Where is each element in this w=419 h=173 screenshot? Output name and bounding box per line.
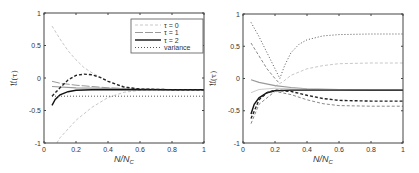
plot-panel-right: 00.20.40.60.81-1-0.500.51N/NC𝔘(τ) (208, 11, 405, 166)
x-tick-label: 1 (401, 146, 405, 153)
legend-label: τ = 0 (164, 22, 179, 29)
y-tick-label: 0 (37, 75, 41, 82)
x-tick-label: 0.4 (103, 146, 113, 153)
x-tick-label: 0.8 (167, 146, 177, 153)
x-tick-label: 0.6 (334, 146, 344, 153)
series-line (251, 22, 403, 78)
y-tick-label: 1 (236, 11, 240, 18)
legend: τ = 0τ = 1τ = 2variance (131, 19, 203, 53)
x-tick-label: 1 (202, 146, 206, 153)
series-line (251, 90, 403, 114)
x-tick-label: 0.6 (135, 146, 145, 153)
legend-label: τ = 2 (164, 37, 179, 44)
y-tick-label: -0.5 (228, 107, 240, 114)
y-tick-label: 0.5 (31, 42, 41, 49)
plot-panel-left: 00.20.40.60.81-1-0.500.51N/NC𝔘(τ)τ = 0τ … (9, 10, 206, 166)
series-line (275, 63, 403, 86)
x-axis-label: N/NC (114, 154, 135, 165)
y-tick-label: -0.5 (29, 107, 41, 114)
x-tick-label: 0.8 (366, 146, 376, 153)
legend-label: τ = 1 (164, 29, 179, 36)
series-line (251, 91, 403, 123)
x-tick-label: 0.2 (270, 146, 280, 153)
y-axis-label: 𝔘(τ) (9, 70, 19, 86)
x-tick-label: 0 (42, 146, 46, 153)
x-axis-label: N/NC (313, 154, 334, 165)
y-tick-label: -1 (234, 140, 240, 147)
x-tick-label: 0.2 (71, 146, 81, 153)
y-axis-label: 𝔘(τ) (208, 71, 218, 87)
axes-frame (243, 14, 403, 143)
y-tick-label: 0.5 (230, 43, 240, 50)
y-tick-label: -1 (35, 140, 41, 147)
x-tick-label: 0.4 (302, 146, 312, 153)
y-tick-label: 1 (37, 10, 41, 17)
legend-label: variance (164, 44, 191, 51)
chart-figure: 00.20.40.60.81-1-0.500.51N/NC𝔘(τ)τ = 0τ … (0, 0, 419, 173)
x-tick-label: 0 (241, 146, 245, 153)
series-line (57, 90, 204, 143)
y-tick-label: 0 (236, 75, 240, 82)
